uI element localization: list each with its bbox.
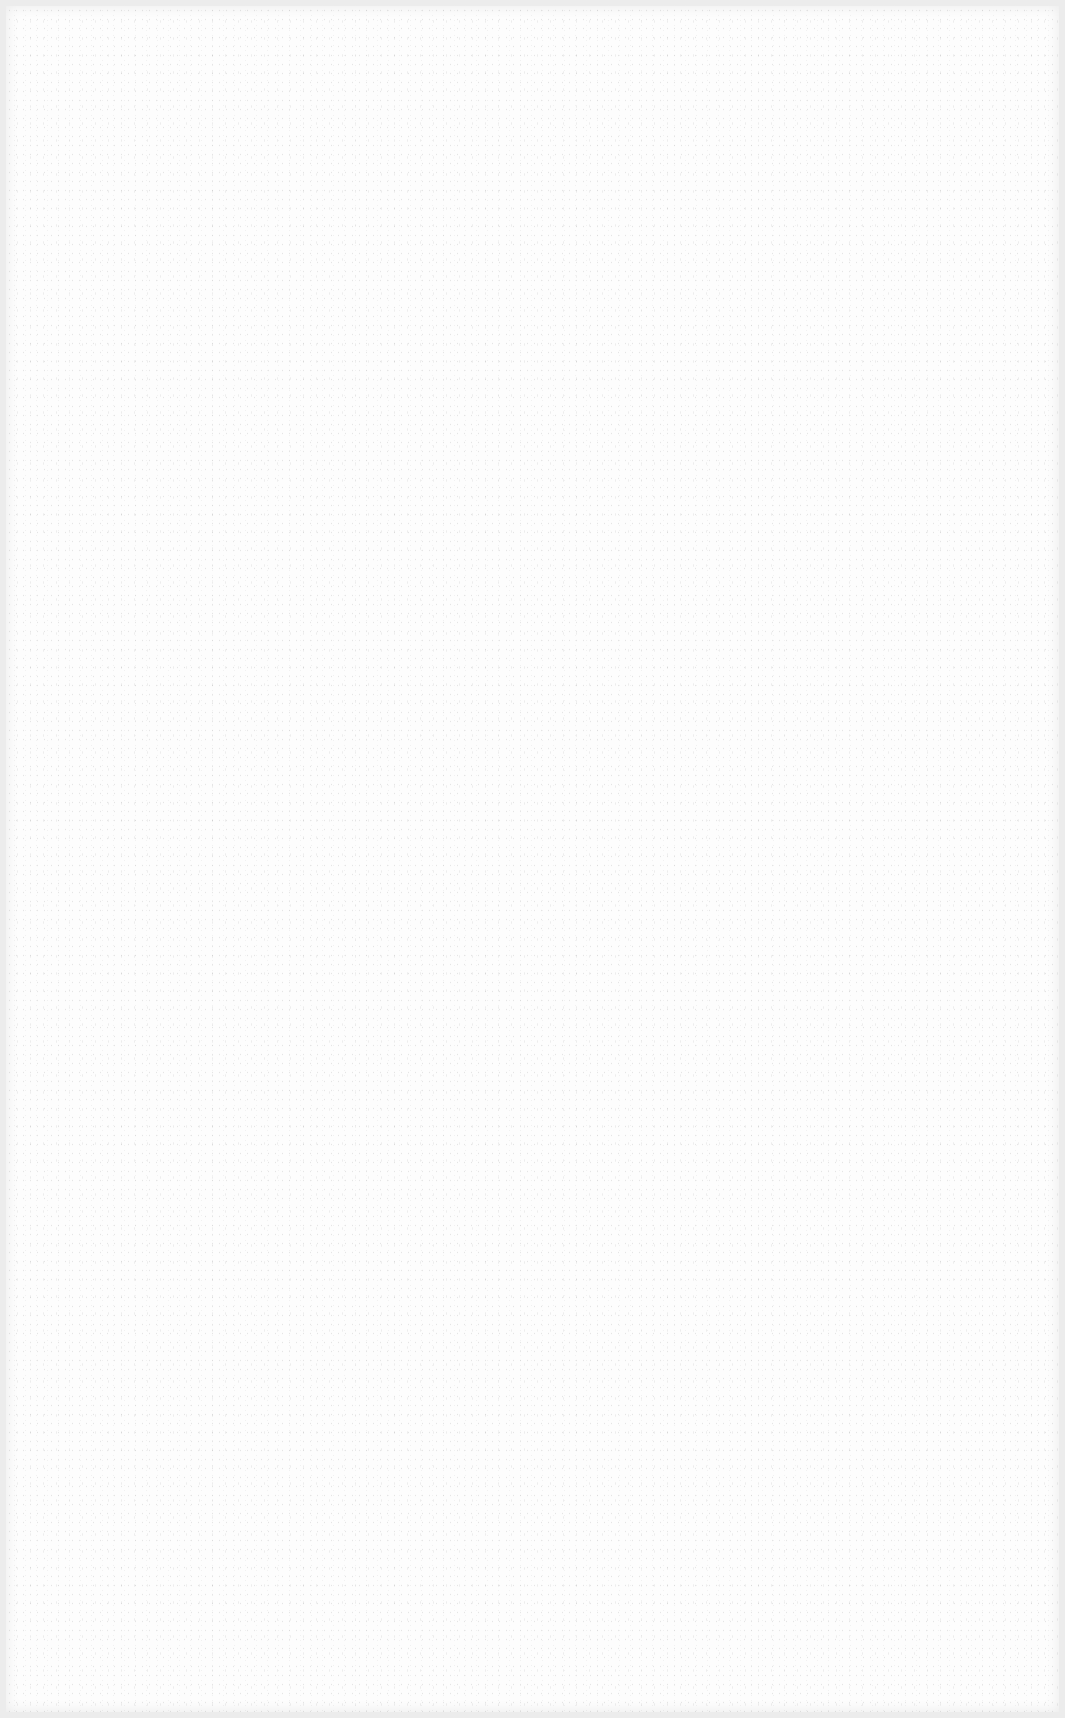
page-content	[6, 6, 1059, 1712]
blank-page	[6, 6, 1059, 1712]
